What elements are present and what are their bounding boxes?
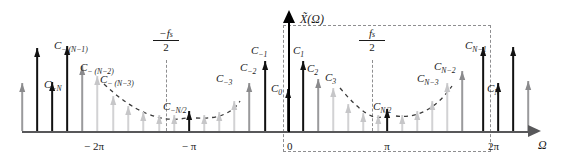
- impulse-line: [142, 112, 144, 131]
- impulse-arrowhead: [300, 61, 306, 70]
- impulse-line: [362, 113, 364, 131]
- impulse-line: [173, 115, 175, 131]
- label-c-N-2: CN−2: [434, 61, 456, 75]
- label-c-minus-N-3: C− (N−3): [100, 74, 134, 88]
- label-c-2-subscript: 2: [314, 68, 318, 77]
- label-c-minus-3: C−3: [216, 73, 232, 87]
- label-c-N-half: CN/2: [373, 101, 391, 115]
- impulse-line: [416, 111, 418, 131]
- label-c-N-1: CN−1: [465, 40, 487, 54]
- impulse-arrowhead: [444, 83, 450, 92]
- label-c-minus-N: C−N: [44, 79, 62, 93]
- impulse-line: [203, 115, 205, 131]
- tick-label-two-pi: 2π: [488, 141, 499, 152]
- impulse-line: [218, 112, 220, 131]
- label-c-minus-N-half-subscript: −N/2: [170, 106, 186, 115]
- label-c-1-subscript: 1: [300, 50, 304, 59]
- impulse-line: [482, 47, 484, 131]
- label-c-0-subscript: 0: [278, 88, 282, 97]
- frequency-axis: [22, 131, 534, 133]
- impulse-arrowhead: [125, 106, 131, 115]
- impulse-arrowhead: [414, 111, 420, 120]
- impulse-arrowhead: [459, 71, 465, 80]
- impulse-line: [332, 88, 334, 131]
- impulse-line: [264, 61, 266, 131]
- label-c-N-1-subscript: N−1: [472, 45, 486, 54]
- label-c-3: C3: [325, 72, 336, 86]
- pos-fs-den: 2: [359, 42, 385, 54]
- impulse-arrowhead: [19, 83, 25, 92]
- impulse-arrowhead: [216, 112, 222, 121]
- impulse-line: [233, 101, 235, 131]
- impulse-line: [302, 61, 304, 131]
- impulse-line: [446, 83, 448, 131]
- impulse-arrowhead: [429, 101, 435, 110]
- spectrum-figure: X̃(Ω) Ω C−NC− (N−1)C− (N−2)C− (N−3)C−N/2…: [0, 0, 561, 166]
- impulse-line: [127, 106, 129, 131]
- impulse-line: [317, 79, 319, 131]
- label-c-N-2-subscript: N−2: [441, 66, 455, 75]
- label-c-minus-1-subscript: −1: [258, 50, 267, 59]
- label-c-minus-N-1-subscript: − (N−1): [61, 45, 87, 54]
- impulse-line: [66, 46, 68, 131]
- label-c-minus-2: C−2: [240, 62, 256, 76]
- tick-label-zero: 0: [287, 141, 293, 152]
- impulse-stem: [302, 61, 304, 131]
- impulse-arrowhead: [34, 48, 40, 57]
- label-c-1: C1: [293, 45, 304, 59]
- impulse-stem: [461, 71, 463, 131]
- impulse-arrowhead: [360, 113, 366, 122]
- impulse-line: [377, 115, 379, 131]
- label-c-3-subscript: 3: [332, 77, 336, 86]
- neg-fs-den: 2: [153, 42, 179, 54]
- tick-label-minus-two-pi: − 2π: [84, 141, 104, 152]
- label-c-N-3: CN−3: [417, 73, 439, 87]
- impulse-line: [431, 101, 433, 131]
- impulse-arrowhead: [315, 79, 321, 88]
- x-axis-label-text: Ω: [538, 138, 547, 153]
- impulse-stem: [264, 61, 266, 131]
- tick-label-minus-pi: − π: [182, 141, 197, 152]
- impulse-arrowhead: [525, 81, 531, 90]
- impulse-arrowhead: [171, 115, 177, 124]
- impulse-arrowhead: [375, 115, 381, 124]
- impulse-line: [512, 47, 514, 131]
- impulse-line: [158, 115, 160, 131]
- impulse-line: [461, 71, 463, 131]
- impulse-stem: [66, 46, 68, 131]
- y-axis-label: X̃(Ω): [300, 12, 324, 27]
- label-c-minus-1: C−1: [251, 45, 267, 59]
- impulse-line: [112, 96, 114, 131]
- impulse-stem: [512, 47, 514, 131]
- impulse-arrowhead: [201, 115, 207, 124]
- label-c-minus-N-half: C−N/2: [163, 101, 187, 115]
- impulse-line: [347, 104, 349, 131]
- impulse-line: [188, 111, 190, 131]
- impulse-arrowhead: [399, 115, 405, 124]
- impulse-arrowhead: [262, 61, 268, 70]
- label-c-N: CN: [487, 83, 499, 97]
- neg-fs-half-dashed-line: [166, 60, 167, 131]
- label-c-minus-N-3-subscript: − (N−3): [107, 79, 133, 88]
- neg-fs-half-label: −fs 2: [153, 28, 179, 53]
- tick-label-pi: π: [384, 141, 390, 152]
- label-c-N-3-subscript: N−3: [424, 78, 438, 87]
- impulse-arrowhead: [110, 96, 116, 105]
- impulse-arrowhead: [510, 47, 516, 56]
- impulse-line: [96, 76, 98, 131]
- label-c-minus-3-subscript: −3: [223, 78, 232, 87]
- frequency-axis-arrow: [528, 125, 541, 137]
- y-axis-label-text: X̃(Ω): [300, 12, 324, 26]
- label-c-minus-N-subscript: −N: [51, 84, 61, 93]
- label-c-N-subscript: N: [494, 88, 499, 97]
- impulse-line: [248, 83, 250, 131]
- impulse-stem: [482, 47, 484, 131]
- label-c-0: C0: [271, 83, 282, 97]
- magnitude-axis-arrow: [283, 10, 295, 23]
- impulse-arrowhead: [246, 83, 252, 92]
- impulse-arrowhead: [140, 112, 146, 121]
- label-c-2: C2: [307, 63, 318, 77]
- magnitude-axis: [288, 22, 290, 132]
- neg-fs-num-sub: s: [170, 30, 173, 39]
- impulse-arrowhead: [330, 88, 336, 97]
